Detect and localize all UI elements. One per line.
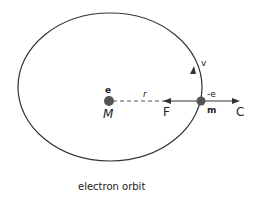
electron-mass-label: m xyxy=(207,106,216,115)
centrifugal-arrowhead xyxy=(232,98,240,104)
force-label: F xyxy=(163,106,170,118)
radius-label: r xyxy=(143,90,147,99)
nucleus-charge-label: e xyxy=(105,86,111,95)
force-arrowhead xyxy=(163,98,171,104)
nucleus-dot xyxy=(104,96,114,106)
electron-dot xyxy=(197,97,206,106)
electron-charge-label: -e xyxy=(207,90,216,99)
nucleus-mass-label: M xyxy=(103,108,113,120)
orbit-diagram xyxy=(0,0,254,208)
orbit-caption: electron orbit xyxy=(78,182,145,192)
centrifugal-label: C xyxy=(236,106,244,118)
velocity-arrowhead xyxy=(190,66,196,74)
velocity-label: v xyxy=(201,59,206,68)
